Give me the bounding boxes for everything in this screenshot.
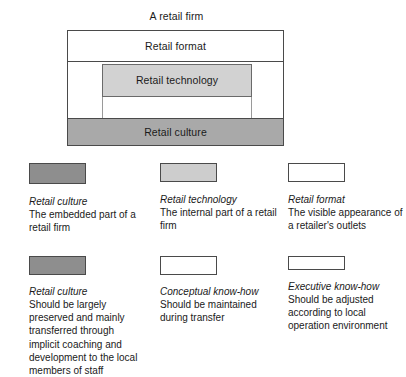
light-gray-swatch: [160, 163, 217, 182]
legend-term: Retail technology: [160, 193, 275, 206]
retail-format-layer: Retail format: [68, 31, 283, 62]
legend-item-retail-culture-guidance: Retail culture Should be largely preserv…: [0, 256, 144, 377]
legend-item-retail-technology: Retail technology The internal part of a…: [144, 163, 275, 234]
legend-term: Retail format: [288, 193, 403, 206]
legend-description: The internal part of a retail firm: [160, 206, 278, 232]
legend-description: The embedded part of a retail firm: [29, 208, 147, 234]
legend-term: Executive know-how: [288, 280, 403, 293]
legend-description: Should be adjusted according to local op…: [288, 293, 406, 333]
legend-description: Should be maintained during transfer: [160, 298, 278, 324]
retail-firm-diagram: A retail firm Retail format Retail techn…: [67, 10, 286, 148]
diagram-title: A retail firm: [67, 10, 286, 23]
legend-term: Retail culture: [29, 285, 144, 298]
dark-gray-swatch: [29, 256, 86, 275]
white-swatch: [288, 163, 345, 182]
legend-term: Retail culture: [29, 195, 144, 208]
legend-row-definitions: Retail culture The embedded part of a re…: [0, 163, 403, 234]
legend-row-transfer-guidance: Retail culture Should be largely preserv…: [0, 256, 403, 377]
retail-culture-layer: Retail culture: [68, 118, 283, 145]
legend-item-conceptual-know-how: Conceptual know-how Should be maintained…: [144, 256, 275, 377]
retail-firm-box: Retail format Retail technology Retail c…: [67, 30, 284, 146]
legend-term: Conceptual know-how: [160, 285, 275, 298]
legend-description: Should be largely preserved and mainly t…: [29, 298, 147, 377]
legend-item-retail-culture: Retail culture The embedded part of a re…: [0, 163, 144, 234]
dark-gray-swatch: [29, 163, 86, 184]
dotted-swatch: [288, 256, 345, 270]
retail-technology-underlay: [102, 97, 252, 119]
retail-culture-label: Retail culture: [144, 126, 207, 139]
legend-description: The visible appearance of a retailer's o…: [288, 206, 406, 232]
retail-technology-label: Retail technology: [136, 74, 218, 87]
dotted-swatch: [160, 256, 217, 275]
legend-item-retail-format: Retail format The visible appearance of …: [275, 163, 403, 234]
retail-technology-layer: Retail technology: [102, 64, 252, 97]
retail-format-label: Retail format: [141, 40, 210, 53]
legend-item-executive-know-how: Executive know-how Should be adjusted ac…: [275, 256, 403, 377]
